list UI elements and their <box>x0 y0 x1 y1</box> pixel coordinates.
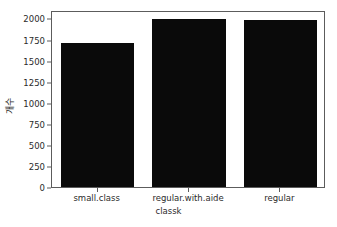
x-tick-mark <box>97 188 98 192</box>
y-tick-label: 250 <box>3 163 45 172</box>
x-tick-mark <box>188 188 189 192</box>
x-tick-label: regular <box>264 194 294 203</box>
bar <box>61 43 134 188</box>
x-tick-label: regular.with.aide <box>152 194 223 203</box>
bar <box>244 20 317 188</box>
bar-chart-figure: 개수 025050075010001250150017502000 small.… <box>0 0 337 227</box>
plot-area <box>51 11 325 188</box>
x-axis-label: classk <box>0 207 337 216</box>
y-tick-label: 750 <box>3 121 45 130</box>
y-tick-label: 0 <box>3 184 45 193</box>
x-tick-mark <box>279 188 280 192</box>
y-tick-label: 1750 <box>3 36 45 45</box>
y-tick-label: 1000 <box>3 99 45 108</box>
y-tick-label: 500 <box>3 142 45 151</box>
x-tick-label: small.class <box>73 194 119 203</box>
bar <box>152 19 225 188</box>
y-tick-label: 2000 <box>3 15 45 24</box>
y-tick-label: 1250 <box>3 78 45 87</box>
y-tick-label: 1500 <box>3 57 45 66</box>
